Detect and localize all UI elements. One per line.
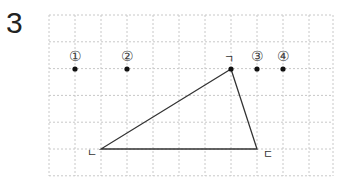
candidate-point [254,66,259,71]
vertex-label: ㄴ [87,147,97,160]
point-label: ① [69,48,82,64]
point-label: ② [121,48,134,64]
grid-figure: ㄱㄴㄷ①②③④ [0,0,350,185]
point-label: ④ [277,48,290,64]
point-label: ③ [251,48,264,64]
vertex-label: ㄷ [263,148,273,161]
candidate-point [280,66,285,71]
candidate-point [72,66,77,71]
vertex-label: ㄱ [224,53,234,66]
vertex-dot [228,66,233,71]
candidate-point [124,66,129,71]
